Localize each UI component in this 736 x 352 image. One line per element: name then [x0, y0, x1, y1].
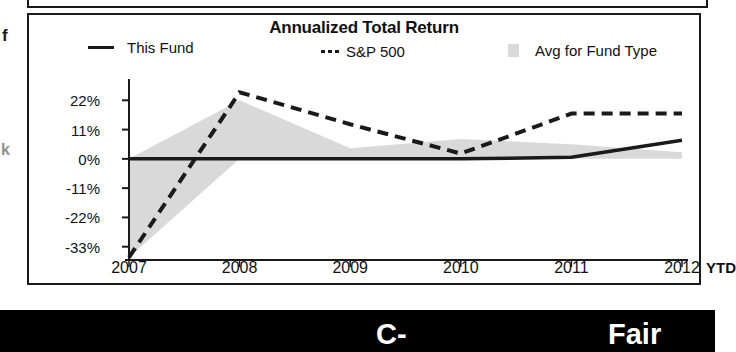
- x-axis-tick-label: 2008: [222, 260, 258, 276]
- y-axis-tick-label: -22%: [38, 210, 100, 225]
- x-axis-tick-label: 2007: [111, 260, 147, 276]
- page-edge-glyph-upper: f: [2, 27, 8, 44]
- plot-area: [29, 15, 699, 283]
- chart-plot-svg: [29, 15, 699, 283]
- rating-bar: C- Fair: [0, 310, 715, 352]
- x-axis-tick-label: 2012: [664, 260, 700, 276]
- rating-grade: C-: [376, 320, 407, 349]
- x-axis-ytd-label: YTD: [706, 260, 736, 275]
- y-axis-tick-label: -11%: [38, 181, 100, 196]
- x-axis-tick-labels: 200720082009201020112012YTD: [29, 260, 699, 284]
- rating-word: Fair: [608, 320, 661, 349]
- x-axis-tick-label: 2009: [332, 260, 368, 276]
- partial-panel-above: [27, 0, 708, 8]
- x-axis-tick-label: 2010: [443, 260, 479, 276]
- y-axis-tick-label: 22%: [38, 93, 100, 108]
- x-axis-tick-label: 2011: [554, 260, 588, 276]
- y-axis-tick-label: 0%: [38, 151, 100, 166]
- y-axis-tick-label: -33%: [38, 239, 100, 254]
- page-edge-glyph-lower: k: [1, 142, 10, 158]
- annualized-total-return-panel: Annualized Total Return This Fund S&P 50…: [27, 13, 701, 285]
- y-axis-tick-labels: 22%11%0%-11%-22%-33%: [38, 15, 100, 283]
- y-axis-tick-label: 11%: [38, 122, 100, 137]
- avg-for-fund-type-area: [129, 100, 682, 257]
